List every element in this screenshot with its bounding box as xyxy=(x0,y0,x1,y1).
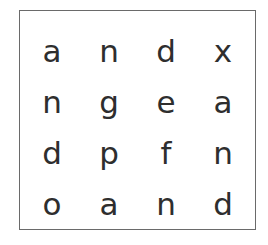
grid-letter-r2-c2: g xyxy=(84,87,134,118)
grid-letter-r4-c3: n xyxy=(141,189,191,220)
grid-letter-r2-c3: e xyxy=(141,87,191,118)
letter-grid: andxngeadpfnoand xyxy=(20,11,255,229)
grid-letter-r2-c4: a xyxy=(198,87,248,118)
grid-letter-r4-c2: a xyxy=(84,189,134,220)
grid-letter-r3-c2: p xyxy=(84,138,134,169)
grid-letter-r1-c4: x xyxy=(198,36,248,67)
grid-letter-r1-c1: a xyxy=(27,36,77,67)
grid-letter-r4-c4: d xyxy=(198,189,248,220)
grid-letter-r4-c1: o xyxy=(27,189,77,220)
grid-letter-r3-c4: n xyxy=(198,138,248,169)
grid-letter-r2-c1: n xyxy=(27,87,77,118)
grid-letter-r3-c1: d xyxy=(27,138,77,169)
letter-grid-box: andxngeadpfnoand xyxy=(19,10,256,230)
grid-letter-r1-c2: n xyxy=(84,36,134,67)
grid-letter-r1-c3: d xyxy=(141,36,191,67)
grid-letter-r3-c3: f xyxy=(141,138,191,169)
